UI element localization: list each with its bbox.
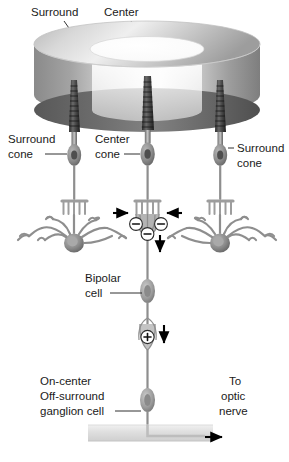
cone-pedicle (208, 201, 233, 215)
minus-sign-center (141, 228, 154, 241)
horizontal-cell-left (18, 215, 126, 253)
cone-inner-segment (145, 130, 151, 143)
optic-nerve-label-line3: nerve (219, 405, 248, 417)
horizontal-cell-nucleus (213, 237, 223, 247)
cone-inner-segment (218, 132, 224, 145)
cone-nucleus (217, 150, 223, 159)
surround-cone-right-label-line1: Surround (237, 142, 284, 154)
plus-sign-excitatory (141, 330, 154, 343)
horizontal-cell-nucleus (67, 237, 77, 247)
ganglion-cell (140, 350, 155, 432)
optic-nerve-label-line1: To (229, 375, 241, 387)
minus-sign-left (130, 218, 143, 231)
ganglion-cell-label-line3: ganglion cell (40, 405, 104, 417)
cone-pedicle (62, 201, 87, 215)
cone-pedicle (135, 201, 160, 216)
surround-cone-left-label-line1: Surround (8, 133, 55, 145)
ganglion-cell-label-line2: Off-surround (40, 390, 104, 402)
surround-cone-left-label-line2: cone (8, 148, 33, 160)
retina-receptive-field-diagram: Surround Center (0, 0, 289, 462)
cone-inner-segment (72, 132, 78, 145)
bipolar-cell-label-line2: cell (85, 287, 102, 299)
optic-nerve-fiber-layer (88, 425, 222, 441)
surround-stimulus-label: Surround (31, 6, 78, 18)
ganglion-cell-label-line1: On-center (40, 375, 91, 387)
surround-cone-right-label-line2: cone (237, 157, 262, 169)
cone-nucleus (71, 150, 77, 159)
horizontal-cell-right (168, 215, 276, 253)
minus-sign-right (155, 218, 168, 231)
ganglion-nucleus (144, 394, 151, 406)
nerve-fiber-band (88, 425, 213, 441)
optic-nerve-label-line2: optic (221, 390, 246, 402)
bipolar-cell-label-line1: Bipolar (85, 272, 121, 284)
bipolar-ganglion-synapse (139, 318, 164, 350)
center-stimulus-label: Center (104, 6, 139, 18)
cone-nucleus (144, 149, 150, 159)
center-cone-label-line2: cone (95, 148, 120, 160)
diagram-canvas: Surround Center (0, 0, 289, 462)
bipolar-nucleus (144, 285, 151, 297)
center-cone-label-line1: Center (95, 133, 130, 145)
